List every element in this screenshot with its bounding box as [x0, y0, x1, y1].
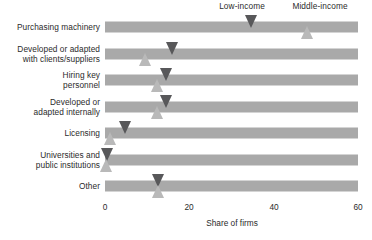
category-label-line: public institutions — [36, 160, 100, 170]
middle-income-marker — [152, 185, 164, 198]
category-label-line: Developed or — [50, 97, 100, 107]
legend-item-middle-income: Middle-income — [292, 1, 347, 11]
chart-row-hiring-key-personnel: Hiring key personnel — [0, 67, 372, 94]
chart-row-other: Other — [0, 173, 372, 200]
category-label: Other — [79, 181, 100, 191]
category-label: Developed or adapted with clients/suppli… — [17, 44, 100, 64]
middle-income-marker — [151, 79, 163, 92]
category-bar — [105, 181, 358, 192]
middle-income-marker — [301, 26, 313, 39]
category-label: Developed or adapted internally — [34, 97, 100, 117]
x-axis-title: Share of firms — [206, 218, 258, 228]
category-label-line: Other — [79, 181, 100, 191]
category-label-line: Purchasing machinery — [17, 22, 100, 32]
category-label: Universities and public institutions — [36, 150, 100, 170]
x-tick-label: 20 — [184, 202, 193, 212]
category-label: Licensing — [64, 128, 100, 138]
category-bar — [105, 128, 358, 139]
category-label-line: Developed or adapted — [17, 44, 100, 54]
x-tick-label: 40 — [269, 202, 278, 212]
category-bar — [105, 22, 358, 33]
x-tick-label: 0 — [103, 202, 108, 212]
category-bar — [105, 154, 358, 165]
low-income-marker — [119, 121, 131, 134]
category-label-line: adapted internally — [34, 107, 100, 117]
chart-row-universities: Universities and public institutions — [0, 147, 372, 174]
category-bar — [105, 75, 358, 86]
chart-row-purchasing-machinery: Purchasing machinery — [0, 14, 372, 41]
chart-legend: Low-income Middle-income — [0, 0, 372, 14]
category-label-line: personnel — [63, 80, 100, 90]
middle-income-marker — [151, 106, 163, 119]
plot-area: Purchasing machinery Developed or adapte… — [0, 14, 372, 200]
category-label: Purchasing machinery — [17, 22, 100, 32]
category-label-line: Licensing — [64, 128, 100, 138]
category-label-line: Universities and — [40, 150, 100, 160]
category-bar — [105, 101, 358, 112]
low-income-marker — [166, 42, 178, 55]
middle-income-marker — [139, 53, 151, 66]
x-axis: 0 20 40 60 Share of firms — [0, 200, 372, 240]
chart-row-developed-internally: Developed or adapted internally — [0, 94, 372, 121]
low-income-marker — [245, 15, 257, 28]
category-label-line: with clients/suppliers — [23, 54, 100, 64]
chart-container: Low-income Middle-income Purchasing mach… — [0, 0, 372, 240]
x-tick-label: 60 — [353, 202, 362, 212]
middle-income-marker — [100, 159, 112, 172]
chart-row-developed-with-clients: Developed or adapted with clients/suppli… — [0, 41, 372, 68]
category-label-line: Hiring key — [63, 70, 100, 80]
middle-income-marker — [104, 132, 116, 145]
category-label: Hiring key personnel — [63, 70, 100, 90]
legend-item-low-income: Low-income — [219, 1, 265, 11]
chart-row-licensing: Licensing — [0, 120, 372, 147]
